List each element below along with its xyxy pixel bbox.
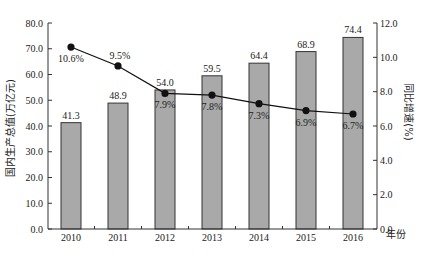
gdp-bar — [108, 103, 128, 229]
growth-point — [114, 62, 121, 69]
growth-point — [302, 107, 309, 114]
left-y-axis: 0.010.020.030.040.050.060.070.080.0 — [26, 18, 53, 235]
x-tick-label: 2010 — [61, 232, 81, 243]
gdp-growth-chart: 0.010.020.030.040.050.060.070.080.0 0.02… — [0, 0, 421, 256]
bar-value-label: 54.0 — [156, 77, 174, 88]
bar-value-label: 68.9 — [297, 39, 315, 50]
right-axis-title: 同比增速(%) — [403, 83, 415, 140]
left-tick-label: 70.0 — [26, 43, 44, 54]
left-tick-label: 30.0 — [26, 146, 44, 157]
x-tick-label: 2015 — [296, 232, 316, 243]
bar-value-label: 48.9 — [109, 90, 127, 101]
bar-value-label: 74.4 — [344, 24, 362, 35]
right-tick-label: 4.0 — [380, 155, 393, 166]
left-tick-label: 60.0 — [26, 69, 44, 80]
growth-point — [255, 100, 262, 107]
growth-value-label: 10.6% — [58, 53, 84, 64]
bar-value-label: 59.5 — [203, 63, 221, 74]
growth-value-label: 6.7% — [343, 120, 364, 131]
x-axis: 2010201120122013201420152016 — [48, 226, 377, 243]
growth-value-label: 7.3% — [249, 110, 270, 121]
growth-value-label: 7.9% — [155, 99, 176, 110]
x-axis-title: 年份 — [386, 228, 406, 240]
x-tick-label: 2012 — [155, 232, 175, 243]
gdp-bar — [296, 52, 316, 229]
x-tick-label: 2013 — [202, 232, 222, 243]
right-tick-label: 6.0 — [380, 121, 393, 132]
growth-point — [161, 90, 168, 97]
gdp-bar — [343, 37, 363, 229]
right-tick-label: 12.0 — [380, 18, 398, 29]
left-tick-label: 0.0 — [31, 224, 44, 235]
left-tick-label: 80.0 — [26, 18, 44, 29]
left-tick-label: 50.0 — [26, 95, 44, 106]
growth-value-label: 7.8% — [202, 101, 223, 112]
right-tick-label: 2.0 — [380, 189, 393, 200]
right-tick-label: 10.0 — [380, 52, 398, 63]
right-y-axis: 0.02.04.06.08.010.012.0 — [373, 18, 398, 235]
gdp-bar — [249, 63, 269, 229]
bar-value-label: 64.4 — [250, 50, 268, 61]
right-tick-label: 8.0 — [380, 86, 393, 97]
growth-point — [67, 43, 74, 50]
x-tick-label: 2011 — [108, 232, 128, 243]
growth-point — [349, 110, 356, 117]
gdp-bars: 41.348.954.059.564.468.974.4 — [61, 24, 363, 229]
left-axis-title: 国内生产总值(万亿元) — [4, 79, 16, 177]
left-tick-label: 40.0 — [26, 121, 44, 132]
left-tick-label: 20.0 — [26, 172, 44, 183]
gdp-bar — [202, 76, 222, 229]
growth-point — [208, 92, 215, 99]
gdp-bar — [61, 123, 81, 229]
x-tick-label: 2016 — [343, 232, 363, 243]
gdp-bar — [155, 90, 175, 229]
bar-value-label: 41.3 — [62, 110, 80, 121]
growth-value-label: 6.9% — [296, 117, 317, 128]
growth-value-label: 9.5% — [110, 50, 131, 61]
left-tick-label: 10.0 — [26, 198, 44, 209]
x-tick-label: 2014 — [249, 232, 269, 243]
